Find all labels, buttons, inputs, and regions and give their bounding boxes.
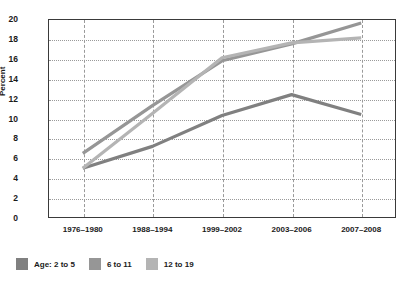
chart-legend: Age: 2 to 56 to 1112 to 19 <box>16 258 208 270</box>
legend-item-label: 6 to 11 <box>107 260 132 269</box>
legend-swatch-icon <box>16 258 28 270</box>
y-axis-tick-label: 14 <box>0 75 18 84</box>
chart-container: Percent Age: 2 to 56 to 1112 to 19 02468… <box>0 0 420 287</box>
legend-item-label: Age: 2 to 5 <box>34 260 75 269</box>
legend-item[interactable]: Age: 2 to 5 <box>16 258 75 270</box>
series-line <box>83 95 361 169</box>
legend-item[interactable]: 6 to 11 <box>89 258 132 270</box>
y-axis-tick-label: 2 <box>0 194 18 203</box>
legend-swatch-icon <box>146 258 158 270</box>
y-axis-tick-label: 18 <box>0 35 18 44</box>
x-axis-tick-label: 1999–2002 <box>202 225 242 234</box>
y-axis-tick-label: 8 <box>0 134 18 143</box>
x-axis-tick-label: 1976–1980 <box>63 225 103 234</box>
y-axis-tick-label: 0 <box>0 214 18 223</box>
series-layer <box>48 19 396 218</box>
x-axis-tick-label: 1988–1994 <box>132 225 172 234</box>
y-axis-tick-label: 6 <box>0 154 18 163</box>
x-axis-tick-label: 2003–2006 <box>272 225 312 234</box>
y-axis-tick-label: 16 <box>0 55 18 64</box>
legend-swatch-icon <box>89 258 101 270</box>
x-axis-tick-label: 2007–2008 <box>341 225 381 234</box>
y-axis-tick-label: 20 <box>0 15 18 24</box>
legend-item-label: 12 to 19 <box>164 260 194 269</box>
legend-item[interactable]: 12 to 19 <box>146 258 194 270</box>
y-axis-tick-label: 10 <box>0 115 18 124</box>
y-axis-tick-label: 12 <box>0 95 18 104</box>
y-axis-tick-label: 4 <box>0 174 18 183</box>
